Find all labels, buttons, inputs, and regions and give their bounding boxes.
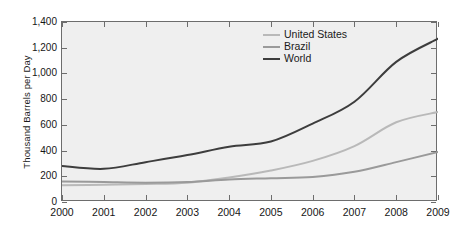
legend-item-united-states: United States <box>263 29 347 40</box>
y-axis-tick-mark-right <box>431 22 436 23</box>
x-axis-tick-mark <box>146 195 147 200</box>
legend-label-brazil: Brazil <box>284 41 310 52</box>
y-axis-tick-mark <box>62 125 67 126</box>
x-axis-tick-mark <box>187 195 188 200</box>
y-axis-tick-label: 1,200 <box>32 43 57 53</box>
legend-swatch-brazil <box>263 46 280 48</box>
y-axis-label: Thousand Barrels per Day <box>20 22 34 202</box>
y-axis-tick-mark <box>62 151 67 152</box>
legend-swatch-united-states <box>263 34 280 36</box>
y-axis-tick-mark <box>62 202 67 203</box>
y-axis-tick-label: 600 <box>40 120 57 130</box>
x-axis-tick-mark-top <box>271 22 272 27</box>
y-axis-tick-label: 200 <box>40 171 57 181</box>
y-axis-tick-label: 1,400 <box>32 17 57 27</box>
series-line-united-states <box>62 112 438 185</box>
legend-item-brazil: Brazil <box>263 41 347 52</box>
x-axis-tick-mark-top <box>146 22 147 27</box>
y-axis-tick-mark-right <box>431 48 436 49</box>
legend-label-world: World <box>284 53 311 64</box>
legend-label-united-states: United States <box>284 29 347 40</box>
x-axis-tick-mark-top <box>62 22 63 27</box>
x-axis-tick-mark <box>62 195 63 200</box>
x-axis-tick-mark <box>396 195 397 200</box>
y-axis-tick-mark-right <box>431 202 436 203</box>
x-axis-tick-label: 2002 <box>134 207 157 218</box>
y-axis-tick-mark-right <box>431 73 436 74</box>
x-axis-tick-mark <box>354 195 355 200</box>
series-line-world <box>62 39 438 169</box>
x-axis-tick-mark-top <box>438 22 439 27</box>
y-axis-tick-label: 800 <box>40 94 57 104</box>
x-axis-tick-mark <box>271 195 272 200</box>
x-axis-tick-mark <box>438 195 439 200</box>
x-axis-tick-mark-top <box>354 22 355 27</box>
y-axis-tick-label: 400 <box>40 146 57 156</box>
x-axis-tick-label: 2005 <box>259 207 282 218</box>
x-axis-tick-label: 2003 <box>176 207 199 218</box>
plot-area: 02004006008001,0001,2001,400 20002001200… <box>61 21 437 201</box>
x-axis-tick-mark-top <box>104 22 105 27</box>
legend-item-world: World <box>263 53 347 64</box>
y-axis-tick-mark <box>62 176 67 177</box>
x-axis-tick-label: 2004 <box>217 207 240 218</box>
x-axis-tick-label: 2000 <box>50 207 73 218</box>
y-axis-tick-mark-right <box>431 176 436 177</box>
y-axis-tick-mark <box>62 73 67 74</box>
x-axis-tick-label: 2001 <box>92 207 115 218</box>
y-axis-tick-label: 1,000 <box>32 68 57 78</box>
x-axis-tick-mark-top <box>187 22 188 27</box>
x-axis-tick-label: 2009 <box>426 207 449 218</box>
y-axis-tick-mark <box>62 99 67 100</box>
x-axis-tick-label: 2006 <box>301 207 324 218</box>
x-axis-tick-mark-top <box>396 22 397 27</box>
x-axis-tick-mark <box>229 195 230 200</box>
legend-swatch-world <box>263 58 280 60</box>
chart-container: 02004006008001,0001,2001,400 20002001200… <box>0 0 451 232</box>
series-lines-svg <box>62 22 438 202</box>
x-axis-tick-mark <box>313 195 314 200</box>
y-axis-tick-mark-right <box>431 151 436 152</box>
x-axis-tick-mark-top <box>313 22 314 27</box>
x-axis-tick-label: 2008 <box>385 207 408 218</box>
y-axis-tick-mark-right <box>431 99 436 100</box>
y-axis-tick-mark-right <box>431 125 436 126</box>
x-axis-tick-mark-top <box>229 22 230 27</box>
chart-legend: United States Brazil World <box>263 29 347 65</box>
x-axis-tick-mark <box>104 195 105 200</box>
x-axis-tick-label: 2007 <box>343 207 366 218</box>
y-axis-tick-mark <box>62 48 67 49</box>
